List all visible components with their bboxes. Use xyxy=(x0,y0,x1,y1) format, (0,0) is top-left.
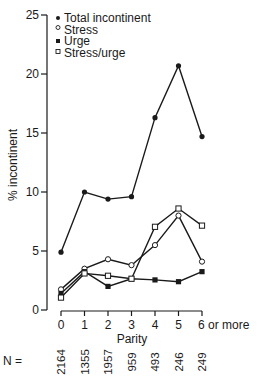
series-markers xyxy=(58,63,204,255)
series-total-incontinent xyxy=(61,66,202,252)
x-tick-label: 1 xyxy=(81,318,88,332)
x-tick-label: 0 xyxy=(58,318,65,332)
data-point xyxy=(105,284,110,289)
data-point xyxy=(58,295,63,300)
x-axis-label: Parity xyxy=(117,332,148,346)
x-tick-label: 3 xyxy=(128,318,135,332)
legend-marker-icon xyxy=(56,50,60,54)
y-axis: 0510152025 xyxy=(26,8,47,317)
data-point xyxy=(58,250,63,255)
data-point xyxy=(152,224,157,229)
x-tick-label: 6 or more xyxy=(198,318,250,332)
data-point xyxy=(129,276,134,281)
y-tick-label: 20 xyxy=(26,67,40,81)
sample-size-value: 1355 xyxy=(79,349,91,375)
data-point xyxy=(82,189,87,194)
sample-size-value: 959 xyxy=(126,352,138,371)
sample-size-value: 246 xyxy=(173,352,185,371)
sample-size-value: 2164 xyxy=(55,349,67,375)
data-point xyxy=(199,134,204,139)
y-tick-label: 25 xyxy=(26,8,40,22)
data-point xyxy=(105,257,110,262)
series-markers xyxy=(58,206,204,300)
data-point xyxy=(152,243,157,248)
sample-size-value: 1957 xyxy=(102,349,114,375)
y-tick-label: 5 xyxy=(32,244,39,258)
legend-marker-icon xyxy=(56,16,60,20)
data-point xyxy=(82,271,87,276)
x-tick-label: 2 xyxy=(105,318,112,332)
line-chart: 0510152025 0123456 or more % incontinent… xyxy=(0,0,263,389)
data-point xyxy=(199,223,204,228)
data-point xyxy=(152,115,157,120)
data-series xyxy=(58,63,204,300)
sample-size-value: 249 xyxy=(196,352,208,371)
x-tick-label: 5 xyxy=(175,318,182,332)
y-tick-label: 15 xyxy=(26,126,40,140)
series-line xyxy=(61,66,202,252)
sample-size-value: 493 xyxy=(149,352,161,371)
y-tick-label: 0 xyxy=(32,303,39,317)
data-point xyxy=(199,259,204,264)
data-point xyxy=(176,279,181,284)
data-point xyxy=(152,277,157,282)
legend-label: Stress/urge xyxy=(64,46,126,60)
legend-item: Stress/urge xyxy=(56,46,126,60)
y-tick-label: 10 xyxy=(26,185,40,199)
y-axis-label: % incontinent xyxy=(6,128,20,201)
sample-size-row: N = 216413551957959493246249 xyxy=(3,349,208,375)
legend-marker-icon xyxy=(56,39,60,43)
data-point xyxy=(129,194,134,199)
data-point xyxy=(105,196,110,201)
legend-marker-icon xyxy=(56,26,60,30)
data-point xyxy=(129,263,134,268)
data-point xyxy=(199,269,204,274)
x-axis: 0123456 or more xyxy=(58,311,250,332)
sample-size-label: N = xyxy=(3,354,22,368)
legend: Total incontinentStressUrgeStress/urge xyxy=(56,11,151,60)
data-point xyxy=(105,273,110,278)
data-point xyxy=(176,206,181,211)
data-point xyxy=(176,213,181,218)
x-tick-label: 4 xyxy=(152,318,159,332)
data-point xyxy=(176,63,181,68)
